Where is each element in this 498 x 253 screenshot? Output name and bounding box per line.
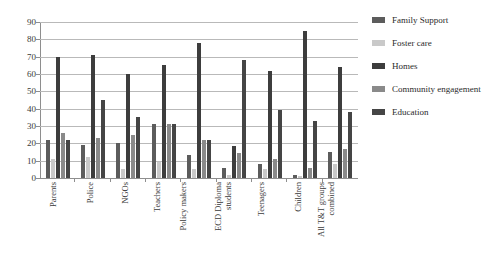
- x-axis-label: Parents: [49, 182, 59, 207]
- bar-chart: 9080706050403020100 ParentsPoliceNGOsTea…: [0, 0, 498, 253]
- bar: [121, 169, 125, 178]
- x-axis-label: NGOs: [121, 182, 131, 204]
- legend-label: Foster care: [392, 38, 432, 48]
- bar: [222, 168, 226, 178]
- bar: [46, 140, 50, 178]
- legend-label: Community engagement: [392, 84, 481, 94]
- bar-group: [323, 22, 358, 178]
- x-axis-label: Teenagers: [256, 182, 266, 216]
- bar: [66, 140, 70, 178]
- bar: [338, 67, 342, 178]
- bar: [157, 162, 161, 178]
- x-label-cell: NGOs: [111, 182, 146, 253]
- bar: [258, 164, 262, 178]
- x-label-cell: Police: [75, 182, 110, 253]
- bar: [101, 100, 105, 178]
- y-tick-label: 80: [4, 35, 36, 44]
- bar: [187, 155, 191, 178]
- legend-label: Family Support: [392, 15, 448, 25]
- bar: [278, 110, 282, 178]
- bar: [81, 145, 85, 178]
- legend-item[interactable]: Homes: [372, 54, 498, 77]
- bar: [152, 124, 156, 178]
- x-label-cell: All T&T groupscombined: [323, 182, 358, 253]
- plot-area: [40, 22, 358, 178]
- bar: [116, 143, 120, 178]
- bar-groups: [40, 22, 358, 178]
- bar: [313, 121, 317, 178]
- bar: [162, 65, 166, 178]
- chart-legend: Family SupportFoster careHomesCommunity …: [372, 8, 498, 123]
- bar: [91, 55, 95, 178]
- bar: [96, 138, 100, 178]
- y-tick-label: 0: [4, 174, 36, 183]
- legend-item[interactable]: Family Support: [372, 8, 498, 31]
- bar-group: [111, 22, 146, 178]
- x-axis-label: Policy makers: [179, 182, 189, 230]
- bar-group: [75, 22, 110, 178]
- bar: [227, 175, 231, 178]
- legend-swatch-icon: [372, 109, 385, 115]
- bar: [172, 124, 176, 178]
- x-label-cell: ECD Diplomastudents: [217, 182, 252, 253]
- bar: [268, 71, 272, 178]
- bar-group: [40, 22, 75, 178]
- legend-label: Homes: [392, 61, 418, 71]
- y-axis: 9080706050403020100: [0, 22, 36, 178]
- bar: [328, 152, 332, 178]
- x-axis-label: ECD Diplomastudents: [214, 182, 233, 231]
- bar: [197, 43, 201, 178]
- bar: [273, 159, 277, 178]
- bar: [136, 117, 140, 178]
- bar-group: [287, 22, 322, 178]
- bar: [348, 112, 352, 178]
- bar: [56, 57, 60, 178]
- x-axis-label: Children: [294, 182, 304, 212]
- bar: [51, 159, 55, 178]
- bar-group: [181, 22, 216, 178]
- y-tick-0: [36, 178, 40, 179]
- bar-group: [252, 22, 287, 178]
- legend-item[interactable]: Education: [372, 100, 498, 123]
- bar-group: [217, 22, 252, 178]
- x-axis-label: Teachers: [153, 182, 163, 212]
- legend-item[interactable]: Foster care: [372, 31, 498, 54]
- bar: [298, 176, 302, 178]
- legend-swatch-icon: [372, 17, 385, 23]
- bar: [86, 157, 90, 178]
- y-tick-label: 60: [4, 70, 36, 79]
- y-tick-label: 20: [4, 139, 36, 148]
- bar: [207, 140, 211, 178]
- bar: [343, 149, 347, 178]
- legend-label: Education: [392, 107, 429, 117]
- x-label-cell: Teenagers: [252, 182, 287, 253]
- x-label-cell: Teachers: [146, 182, 181, 253]
- bar-group: [146, 22, 181, 178]
- x-axis-labels: ParentsPoliceNGOsTeachersPolicy makersEC…: [40, 182, 358, 253]
- bar: [303, 31, 307, 178]
- y-tick-label: 10: [4, 156, 36, 165]
- bar: [333, 164, 337, 178]
- bar: [263, 169, 267, 178]
- x-label-cell: Policy makers: [181, 182, 216, 253]
- y-tick-label: 50: [4, 87, 36, 96]
- bar: [131, 135, 135, 178]
- bar: [242, 60, 246, 178]
- bar: [237, 153, 241, 178]
- y-tick-label: 70: [4, 52, 36, 61]
- bar: [293, 175, 297, 178]
- y-tick-label: 90: [4, 18, 36, 27]
- x-label-cell: Parents: [40, 182, 75, 253]
- legend-swatch-icon: [372, 63, 385, 69]
- legend-swatch-icon: [372, 40, 385, 46]
- y-tick-label: 30: [4, 122, 36, 131]
- bar: [192, 169, 196, 178]
- x-axis-label: All T&T groupscombined: [317, 182, 336, 237]
- legend-item[interactable]: Community engagement: [372, 77, 498, 100]
- bar: [167, 124, 171, 178]
- gridline-0: [40, 178, 358, 179]
- bar: [308, 168, 312, 178]
- bar: [61, 133, 65, 178]
- bar: [126, 74, 130, 178]
- bar: [232, 146, 236, 178]
